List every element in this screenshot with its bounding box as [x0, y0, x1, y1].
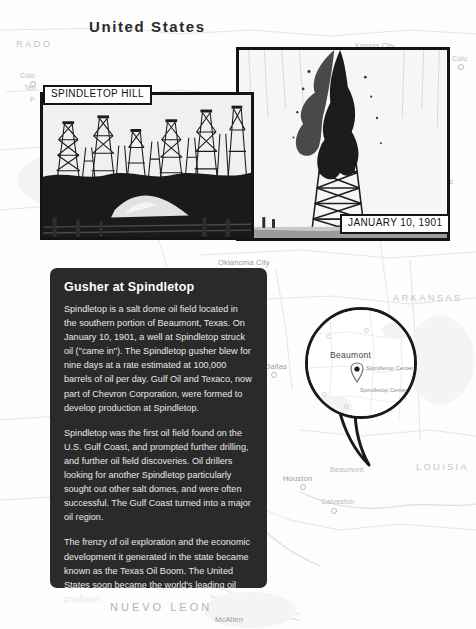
map-state-label-arkansas: ARKANSAS — [393, 292, 462, 303]
map-city-dot-dallas — [271, 372, 277, 378]
inset-label-spindletop-center-2: Spindletop Center — [360, 387, 407, 393]
inset-marker-b — [364, 328, 369, 333]
inset-marker-d — [344, 404, 349, 409]
photo-gusher-1901 — [236, 47, 450, 241]
screenshot-root: INTERNAL WEB PAGE — [0, 0, 476, 629]
map-city-label-columbia: Colu — [452, 55, 467, 62]
caption-january-10-1901: JANUARY 10, 1901 — [340, 214, 450, 234]
inset-marker-c — [322, 392, 327, 397]
photo-spindletop-artwork — [43, 95, 251, 239]
beaumont-inset-map: Beaumont Spindletop Center Spindletop Ce… — [305, 307, 417, 419]
map-pin-icon — [350, 362, 364, 384]
map-state-label-louisiana: LOUISIA — [416, 461, 469, 472]
info-panel-gusher-at-spindletop: Gusher at Spindletop Spindletop is a sal… — [50, 268, 267, 588]
map-city-label-dallas: Dallas — [265, 362, 287, 371]
map-city-label-mcallen: McAllen — [215, 615, 243, 624]
caption-spindletop-hill: SPINDLETOP HILL — [43, 85, 152, 105]
inset-marker-a — [326, 334, 331, 339]
map-city-label-oklahoma-city: Oklahoma City — [218, 258, 270, 267]
inset-label-spindletop-center-1: Spindletop Center — [366, 365, 413, 371]
info-panel-title: Gusher at Spindletop — [64, 280, 253, 294]
map-city-dot-galveston — [331, 508, 337, 514]
map-state-label-colorado: RADO — [16, 38, 52, 49]
info-panel-paragraph-1: Spindletop is a salt dome oil field loca… — [64, 302, 253, 415]
info-panel-paragraph-3: The frenzy of oil exploration and the ec… — [64, 535, 253, 605]
page-title: United States — [89, 18, 206, 35]
photo-spindletop-hill — [40, 92, 254, 240]
map-city-label-ten: Ten — [24, 84, 36, 91]
info-panel-paragraph-2: Spindletop was the first oil field found… — [64, 426, 253, 525]
inset-city-label-beaumont: Beaumont — [330, 350, 371, 360]
map-city-dot-houston — [300, 484, 306, 490]
beaumont-callout: Beaumont Spindletop Center Spindletop Ce… — [305, 307, 423, 477]
photo-gusher-artwork — [239, 50, 447, 239]
map-city-label-p: P — [30, 96, 35, 103]
map-city-label-galveston: Galveston — [321, 498, 354, 505]
map-city-label-colorado-springs: Colo — [20, 72, 35, 79]
map-city-dot-columbia — [458, 64, 464, 70]
